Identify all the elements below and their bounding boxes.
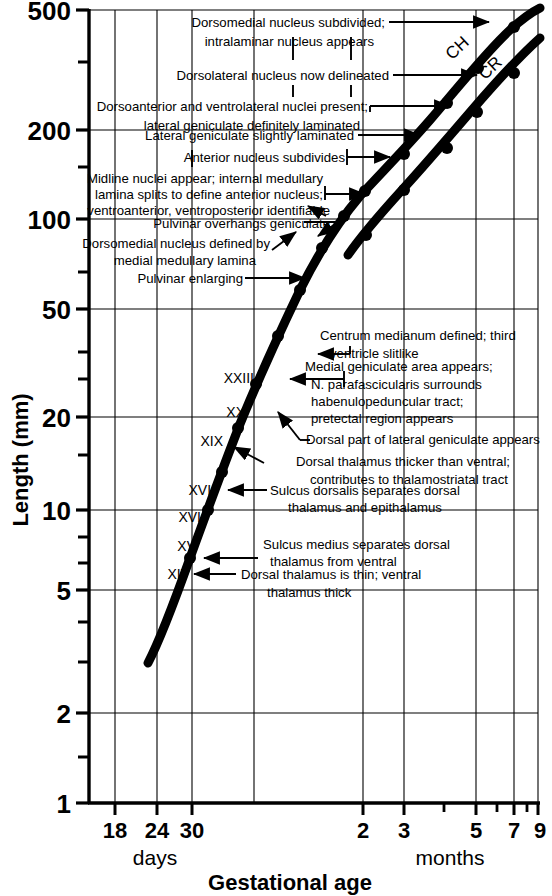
annotation-a11-line1: Medial geniculate area appears; — [305, 359, 493, 374]
node — [232, 422, 244, 434]
annotation-a1-line2: intralaminar nucleus appears — [205, 34, 375, 49]
x-label-30: 30 — [180, 818, 204, 843]
stage-label-xiv: XIV — [167, 566, 190, 582]
x-label-9m: 9 — [534, 818, 546, 843]
annotation-a6-line2: lamina splits to define anterior nucleus… — [95, 187, 323, 202]
annotation-a1-line1: Dorsomedial nucleus subdivided; — [191, 15, 385, 30]
annotation-a2-line1: Dorsolateral nucleus now delineated — [176, 68, 389, 83]
node — [398, 184, 410, 196]
x-axis-title: Gestational age — [208, 870, 372, 895]
y-label-200: 200 — [28, 116, 71, 146]
annotation-a7-line1: Pulvinar overhangs geniculate — [153, 216, 330, 231]
node — [294, 284, 306, 296]
node — [471, 106, 483, 118]
x-label-3m: 3 — [398, 818, 410, 843]
chart-figure: 500 200 100 50 20 10 5 2 1 18 24 30 2 3 … — [0, 0, 552, 896]
annotation-a3-line1: Dorsoanterior and ventrolateral nuclei p… — [97, 99, 368, 114]
y-label-20: 20 — [42, 403, 71, 433]
x-label-5m: 5 — [470, 818, 482, 843]
y-label-50: 50 — [42, 295, 71, 325]
growth-curve-chart: 500 200 100 50 20 10 5 2 1 18 24 30 2 3 … — [0, 0, 552, 896]
x-label-18: 18 — [103, 818, 127, 843]
annotation-a16-line1: Dorsal thalamus is thin; ventral — [241, 567, 421, 582]
y-label-100: 100 — [28, 205, 71, 235]
x-label-24: 24 — [145, 818, 170, 843]
annotation-a5-line1: Anterior nucleus subdivides — [184, 150, 346, 165]
stage-label-xv: XV — [177, 538, 196, 554]
annotation-a11-line4: pretectal region appears — [311, 411, 454, 426]
x-group-months: months — [416, 846, 485, 869]
x-label-7m: 7 — [508, 818, 520, 843]
node — [338, 210, 350, 222]
x-label-2m: 2 — [357, 818, 369, 843]
node — [441, 142, 453, 154]
annotation-a4-line1: Lateral geniculate slightly laminated — [145, 128, 354, 143]
annotation-a9-line1: Pulvinar enlarging — [137, 271, 243, 286]
node — [272, 330, 284, 342]
stage-label-xvi: XVI — [178, 509, 201, 525]
node — [508, 21, 520, 33]
annotation-a16-line2: thalamus thick — [267, 585, 352, 600]
node — [508, 67, 520, 79]
y-axis-title: Length (mm) — [8, 393, 33, 526]
stage-label-xvii: XVII — [189, 482, 215, 498]
node — [202, 504, 214, 516]
annotation-a13-line1: Dorsal thalamus thicker than ventral; — [296, 454, 510, 469]
annotation-a11-line2: N. parafascicularis surrounds — [311, 377, 482, 392]
node — [398, 148, 410, 160]
annotation-a12-line1: Dorsal part of lateral geniculate appear… — [306, 432, 540, 447]
node — [216, 466, 228, 478]
stage-label-xx: XX — [226, 404, 245, 420]
stage-label-xxiii: XXIII — [224, 370, 254, 386]
y-label-5: 5 — [57, 576, 71, 606]
y-label-10: 10 — [42, 496, 71, 526]
annotation-a14-line2: thalamus and epithalamus — [288, 500, 442, 515]
annotation-a15-line1: Sulcus medius separates dorsal — [263, 537, 450, 552]
y-label-2: 2 — [57, 699, 71, 729]
annotation-a6-line1: Midline nuclei appear; internal medullar… — [87, 171, 323, 186]
y-label-1: 1 — [57, 789, 71, 819]
x-group-days: days — [133, 846, 177, 869]
node — [441, 97, 453, 109]
y-label-500: 500 — [28, 0, 71, 26]
stage-label-xix: XIX — [200, 433, 223, 449]
node — [360, 229, 372, 241]
annotation-a10-line1: Centrum medianum defined; third — [320, 328, 516, 343]
annotation-a14-line1: Sulcus dorsalis separates dorsal — [270, 483, 460, 498]
node — [316, 242, 328, 254]
annotation-a11-line3: habenulopeduncular tract; — [311, 394, 464, 409]
node — [359, 185, 371, 197]
annotation-a8-line2: medial medullary lamina — [114, 253, 257, 268]
annotation-a8-line1: Dorsomedial nucleus defined by — [82, 236, 270, 251]
